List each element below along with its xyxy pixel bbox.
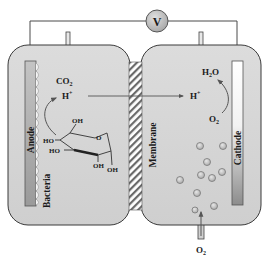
bubble <box>204 159 211 166</box>
glucose-oh-bottom-left: OH <box>93 162 104 170</box>
membrane-hatch <box>129 62 142 210</box>
oxygen-inlet-label: O2 <box>196 245 206 256</box>
voltmeter: V <box>146 10 168 32</box>
bubble <box>197 143 204 150</box>
voltmeter-label: V <box>153 15 162 29</box>
bubble <box>192 207 198 213</box>
cathode-electrode: Cathode <box>232 61 243 205</box>
bubble <box>219 169 226 176</box>
glucose-ho-lower: HO <box>49 147 60 155</box>
bubble <box>220 143 227 150</box>
bacteria-label: Bacteria <box>42 173 52 208</box>
bubble <box>198 172 205 179</box>
cathode-label: Cathode <box>233 131 243 165</box>
glucose-oh-bottom-right: OH <box>107 166 118 174</box>
bubble <box>209 175 216 182</box>
bubble <box>211 203 218 210</box>
glucose-oh-top: OH <box>72 117 83 125</box>
membrane-label: Membrane <box>148 123 158 168</box>
bubble <box>194 190 201 197</box>
anode-port <box>66 32 70 46</box>
bubble <box>177 177 184 184</box>
glucose-ring-oxygen: O <box>96 134 102 142</box>
anode-label: Anode <box>26 127 36 153</box>
cathode-port <box>199 32 203 46</box>
glucose-ho-upper: HO <box>43 137 54 145</box>
microbial-fuel-cell-diagram: V Membrane Anode Bacteria Cathode CO2 H+ <box>0 0 267 263</box>
